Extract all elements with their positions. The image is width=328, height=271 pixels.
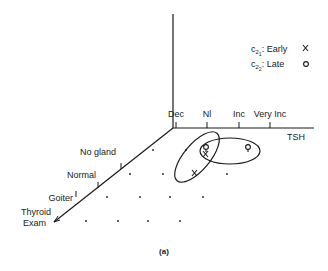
legend-early-label: c21: Early <box>251 44 288 57</box>
depth-axis-title-line1: Thyroid <box>21 207 51 217</box>
grid-dots <box>85 149 228 222</box>
late-markers <box>204 145 251 152</box>
depth-tick-goiter: Goiter <box>48 193 73 203</box>
early-cluster-ellipse <box>167 125 227 189</box>
tsh-tick-very-inc: Very Inc <box>254 109 287 119</box>
legend: c21: Early c22: Late <box>251 44 308 72</box>
depth-axis-title-line2: Exam <box>23 218 46 228</box>
tsh-tick-dec: Dec <box>168 109 185 119</box>
late-cluster-ellipse <box>200 138 260 164</box>
tsh-tick-inc: Inc <box>233 109 246 119</box>
depth-tick-normal: Normal <box>67 170 96 180</box>
depth-tick-no-gland: No gland <box>80 147 116 157</box>
tsh-axis-title: TSH <box>287 132 305 142</box>
tsh-tick-nl: Nl <box>203 109 212 119</box>
figure-caption: (a) <box>159 247 169 256</box>
legend-o-marker-icon <box>304 62 309 67</box>
legend-x-marker-icon <box>303 45 308 51</box>
diagram-canvas: Dec Nl Inc Very Inc TSH No gland Normal … <box>0 0 328 271</box>
tsh-ticks <box>176 122 270 128</box>
depth-ticks <box>76 163 121 197</box>
legend-late-label: c22: Late <box>251 59 284 72</box>
